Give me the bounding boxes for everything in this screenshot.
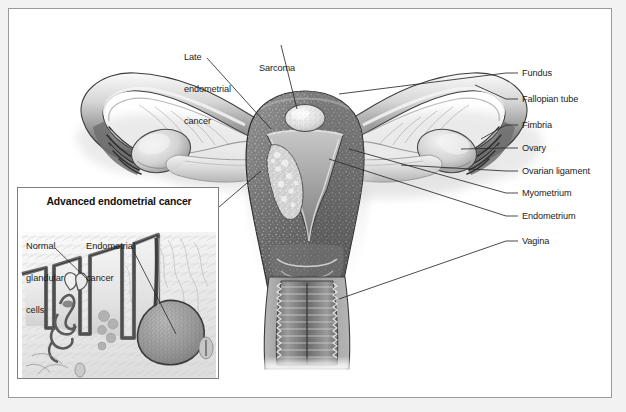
label-line: Normal bbox=[26, 241, 64, 252]
label-line: Late bbox=[184, 52, 231, 63]
cervix bbox=[270, 244, 344, 279]
label-ovary: Ovary bbox=[522, 143, 546, 154]
stromal-vessel bbox=[199, 337, 213, 359]
label-line: cancer bbox=[86, 273, 135, 284]
label-fundus: Fundus bbox=[522, 68, 552, 79]
label-myometrium: Myometrium bbox=[522, 188, 572, 199]
figure-root: Late endometrial cancer Sarcoma Fundus F… bbox=[0, 0, 626, 412]
label-ovarian-ligament: Ovarian ligament bbox=[522, 166, 590, 177]
label-line: Endometrial bbox=[86, 241, 135, 252]
label-fallopian-tube: Fallopian tube bbox=[522, 94, 578, 105]
label-line: endometrial bbox=[184, 84, 231, 95]
label-line: cells bbox=[26, 305, 64, 316]
label-vagina: Vagina bbox=[522, 236, 549, 247]
label-line: glandular bbox=[26, 273, 64, 284]
label-late-endometrial-cancer: Late endometrial cancer bbox=[184, 31, 231, 148]
inset-label-normal-glandular-cells: Normal glandular cells bbox=[26, 220, 64, 337]
label-text: Sarcoma bbox=[259, 63, 295, 74]
leader-vagina bbox=[339, 241, 506, 299]
figure-frame: Late endometrial cancer Sarcoma Fundus F… bbox=[8, 8, 612, 398]
inset-label-endometrial-cancer: Endometrial cancer bbox=[86, 220, 135, 305]
label-fimbria: Fimbria bbox=[522, 120, 552, 131]
inset-title: Advanced endometrial cancer bbox=[18, 196, 219, 207]
stromal-vessel-small bbox=[75, 363, 85, 377]
sarcoma-mass bbox=[285, 105, 325, 132]
label-endometrium: Endometrium bbox=[522, 211, 576, 222]
label-sarcoma: Sarcoma bbox=[259, 21, 295, 95]
inset-panel-advanced-endometrial-cancer: Advanced endometrial cancer Normal gland… bbox=[17, 187, 219, 379]
label-line: cancer bbox=[184, 116, 231, 127]
vagina bbox=[263, 277, 351, 375]
uterus-body bbox=[244, 89, 372, 306]
